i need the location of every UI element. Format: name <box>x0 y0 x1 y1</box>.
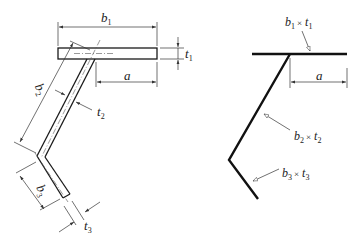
label-t3: t3 <box>84 218 92 235</box>
dim-t3 <box>59 201 100 232</box>
label-a-right: a <box>316 68 323 83</box>
right-figure: a b1×t1 b2×t2 b3×t3 <box>229 15 347 199</box>
label-t2: t2 <box>97 104 105 121</box>
section-diagram: b1 t1 a b2 <box>0 0 359 243</box>
leader-b2t2 <box>264 114 290 130</box>
label-b1: b1 <box>101 10 112 27</box>
label-b2: b2 <box>30 81 50 98</box>
dim-t1 <box>160 37 184 70</box>
left-figure: b1 t1 a b2 <box>14 10 193 235</box>
leader-b3t3 <box>253 169 279 181</box>
label-a-left: a <box>124 68 131 83</box>
label-b3: b3 <box>31 182 51 199</box>
label-b3-x-t3: b3×t3 <box>282 166 309 182</box>
label-t1: t1 <box>185 46 193 63</box>
leader-b1t1 <box>302 31 310 51</box>
centerlines <box>35 40 115 202</box>
label-b1-x-t1: b1×t1 <box>285 15 312 31</box>
label-b2-x-t2: b2×t2 <box>294 129 321 145</box>
diagram-canvas: b1 t1 a b2 <box>0 0 359 243</box>
